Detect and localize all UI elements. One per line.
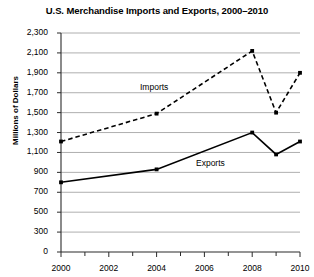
data-point-marker-exports [274, 153, 278, 157]
series-line-imports [61, 51, 300, 142]
data-point-marker-imports [250, 49, 254, 53]
series-label-exports: Exports [196, 158, 225, 168]
data-point-marker-imports [59, 140, 63, 144]
data-point-marker-imports [155, 112, 159, 116]
chart-container: U.S. Merchandise Imports and Exports, 20… [0, 0, 314, 277]
data-point-marker-exports [155, 167, 159, 171]
series-label-imports: Imports [140, 82, 168, 92]
data-point-marker-exports [250, 131, 254, 135]
data-point-marker-exports [59, 180, 63, 184]
data-point-marker-exports [298, 140, 302, 144]
plot-area [0, 0, 314, 277]
series-line-exports [61, 133, 300, 183]
data-point-marker-imports [298, 71, 302, 75]
data-point-marker-imports [274, 111, 278, 115]
